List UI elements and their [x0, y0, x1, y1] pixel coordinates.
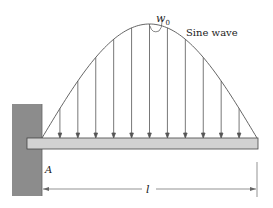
length-label: l [146, 183, 150, 196]
beam-diagram: w0 Sine wave A l [0, 0, 273, 208]
dimension-arrow-left [43, 187, 49, 191]
load-arrowhead [148, 133, 152, 138]
load-arrowhead [130, 133, 134, 138]
curve-label: Sine wave [186, 27, 238, 38]
beam [27, 138, 258, 149]
load-arrowhead [166, 133, 170, 138]
load-arrowhead [58, 133, 62, 138]
support-label: A [44, 164, 52, 175]
load-arrowhead [94, 133, 98, 138]
load-arrowhead [184, 133, 188, 138]
load-arrowhead [76, 133, 80, 138]
fixed-wall-support [12, 104, 42, 196]
load-intensity-label: w0 [156, 12, 170, 27]
load-arrowhead [112, 133, 116, 138]
load-arrowhead [237, 133, 241, 138]
load-arrowhead [219, 133, 223, 138]
load-arrowhead [201, 133, 205, 138]
load-arrows [58, 24, 241, 138]
dimension-arrow-right [250, 187, 256, 191]
